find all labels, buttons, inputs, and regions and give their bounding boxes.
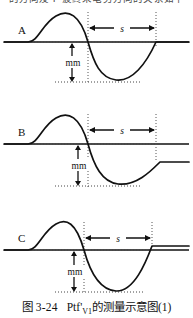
panel-a-svg: A mm s <box>0 6 193 90</box>
depth-label-c: mm <box>68 267 83 277</box>
caption-number: 图 3-24 <box>22 301 58 313</box>
panel-label-c: C <box>18 232 25 244</box>
duration-label-a: s <box>120 24 124 34</box>
waveform-panel-b: B mm s <box>0 104 193 196</box>
p-wave-trace-c <box>4 222 189 291</box>
p-wave-trace-a <box>4 13 189 80</box>
panel-b-svg: B mm s <box>0 104 193 196</box>
figure-container: 的方向及 P 波终末电势方向的关系如下 A <box>0 0 193 318</box>
figure-caption: 图 3-24Ptf'V1的测量示意图(1) <box>0 298 193 316</box>
depth-label-a: mm <box>66 58 81 68</box>
panel-label-a: A <box>18 24 26 36</box>
depth-label-b: mm <box>72 161 87 171</box>
clipped-header-text: 的方向及 P 波终末电势方向的关系如下 <box>0 0 193 5</box>
caption-subscript: V1 <box>82 307 92 316</box>
waveform-panel-a: A mm s <box>0 6 193 90</box>
duration-label-c: s <box>116 234 120 244</box>
duration-label-b: s <box>120 126 124 136</box>
panel-c-svg: C mm s <box>0 206 193 298</box>
p-wave-trace-b <box>4 115 189 184</box>
caption-symbol: Ptf <box>67 301 80 313</box>
caption-text: 的测量示意图(1) <box>92 301 171 313</box>
waveform-panel-c: C mm s <box>0 206 193 298</box>
panel-label-b: B <box>18 126 25 138</box>
